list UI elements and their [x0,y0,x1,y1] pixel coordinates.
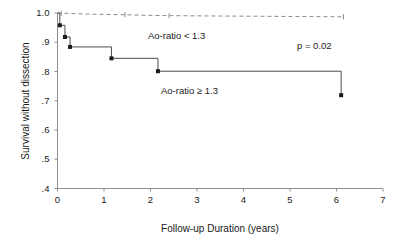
event-marker [63,35,67,39]
x-axis-tick-label: 7 [375,195,391,205]
x-axis-tick-label: 5 [282,195,298,205]
x-axis-tick-label: 6 [329,195,345,205]
kaplan-meier-figure: .4.5.6.7.8.91.0 01234567 Survival withou… [0,0,405,246]
x-axis-tick-label: 4 [236,195,252,205]
event-marker [339,93,343,97]
x-axis-tick-label: 2 [143,195,159,205]
series-step-ao-ratio-ge-1-3 [58,13,342,95]
event-marker [156,69,160,73]
x-axis-tick-label: 0 [50,195,66,205]
annotation-p-value: p = 0.02 [297,41,332,51]
annotation-group-low-ratio: Ao-ratio < 1.3 [148,31,205,41]
x-axis-title: Follow-up Duration (years) [55,224,385,234]
event-marker [58,23,62,27]
x-axis-tick-label: 3 [189,195,205,205]
annotation-group-high-ratio: Ao-ratio ≥ 1.3 [161,86,218,96]
event-marker [109,56,113,60]
y-axis-title: Survival without dissection [21,11,31,191]
series-line-ao-ratio-lt-1-3 [58,13,344,17]
event-marker [68,45,72,49]
censor-tick-marks [61,11,343,20]
x-axis-tick-label: 1 [96,195,112,205]
axes-group [55,13,384,192]
